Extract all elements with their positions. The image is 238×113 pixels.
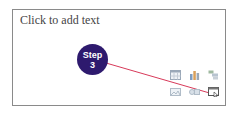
insert-picture-icon[interactable] [170,87,181,97]
step-label: Step [77,50,108,60]
insert-video-icon[interactable] [208,87,219,97]
insert-chart-icon[interactable] [189,70,200,80]
callout-line [0,0,238,113]
step-callout: Step 3 [77,44,108,75]
insert-table-icon[interactable] [170,70,181,80]
insert-smartart-icon[interactable] [208,70,219,80]
step-number: 3 [77,60,108,70]
insert-online-picture-icon[interactable] [189,87,200,97]
